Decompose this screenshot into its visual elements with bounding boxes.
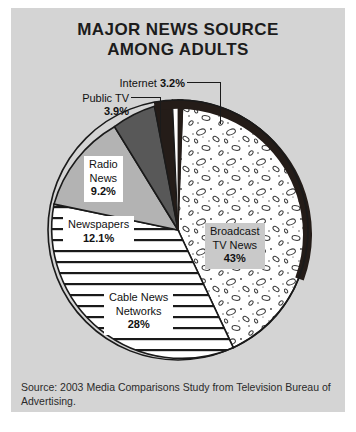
slice-label-cable-value: 28% [109,318,168,332]
leader-line-internet-vertical [220,82,221,124]
chart-figure: MAJOR NEWS SOURCE AMONG ADULTS MAJOR NEW… [11,8,345,412]
slice-label-broadcast-line1: Broadcast [210,225,260,239]
slice-label-radio-news: Radio News 9.2% [84,156,123,202]
slice-label-newspapers-value: 12.1% [68,232,129,246]
slice-label-newspapers: Newspapers 12.1% [63,216,134,248]
slice-label-cable-line2: Networks [109,305,168,319]
source-note: Source: 2003 Media Comparisons Study fro… [21,380,337,408]
title-line-2: AMONG ADULTS [11,40,345,60]
leader-line-publictv-horizontal [131,97,161,98]
slice-label-radio-news-line2: News [89,172,118,186]
page-title: MAJOR NEWS SOURCE AMONG ADULTS MAJOR NEW… [11,20,345,60]
callout-internet: Internet 3.2% [89,77,185,90]
slice-label-radio-news-line1: Radio [89,158,118,172]
callout-public-tv-name: Public TV [45,92,129,105]
title-line-1-visible: MAJOR NEWS SOURCE [11,20,345,40]
leader-line-publictv-vertical [160,97,161,140]
slice-label-cable-line1: Cable News [109,291,168,305]
slice-label-radio-news-value: 9.2% [89,185,118,199]
callout-public-tv: Public TV 3.9% [45,92,129,118]
slice-label-broadcast-line2: TV News [210,239,260,253]
slice-label-newspapers-line1: Newspapers [68,218,129,232]
leader-line-internet-horizontal [187,82,221,83]
callout-public-tv-value: 3.9% [104,105,129,117]
slice-label-cable-news-networks: Cable News Networks 28% [104,289,173,335]
callout-internet-name: Internet [120,77,160,89]
slice-label-broadcast-tv-news: Broadcast TV News 43% [205,223,265,269]
callout-internet-value: 3.2% [160,77,185,89]
slice-label-broadcast-value: 43% [210,252,260,266]
